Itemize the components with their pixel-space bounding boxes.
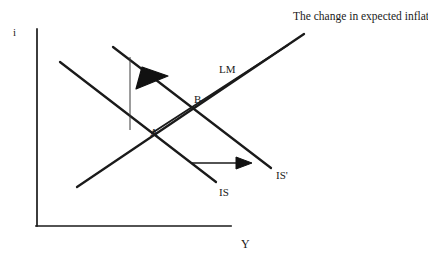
point-label-a: A — [150, 126, 158, 139]
lm-shifted-curve — [152, 45, 288, 133]
is-lm-diagram-svg — [0, 0, 428, 261]
curve-label-lm: LM — [219, 63, 236, 76]
axes-group — [36, 29, 231, 226]
axis-label-i: i — [13, 26, 16, 39]
curve-label-is-prime: IS' — [276, 169, 288, 182]
diagram-canvas: i Y A B LM IS IS' The change in expected… — [0, 0, 428, 261]
is-shift-arrowhead — [236, 157, 252, 169]
is-shift-arrow — [191, 157, 252, 169]
point-label-b: B — [194, 93, 201, 106]
curve-label-is: IS — [219, 186, 229, 199]
expected-inflation-annotation: The change in expected inflation. — [293, 10, 425, 24]
axis-label-y: Y — [241, 237, 250, 251]
